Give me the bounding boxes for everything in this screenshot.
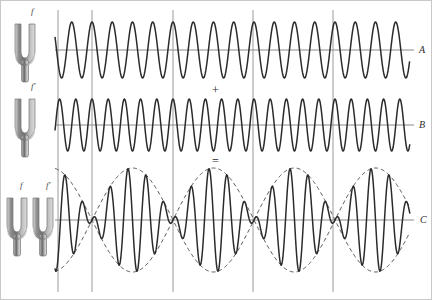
plus-operator: + xyxy=(212,84,219,96)
fork-label-b: f′ xyxy=(31,82,35,91)
equals-operator: = xyxy=(212,155,219,167)
fork-label-c2: f′ xyxy=(46,181,50,190)
waveform-diagram xyxy=(0,0,432,300)
beats-figure: + = A B C f f′ f f′ xyxy=(0,0,432,300)
wave-label-b: B xyxy=(419,120,425,130)
wave-label-a: A xyxy=(419,45,425,55)
fork-label-a: f xyxy=(31,7,34,16)
wave-label-c: C xyxy=(420,215,427,225)
fork-label-c1: f xyxy=(20,181,23,190)
